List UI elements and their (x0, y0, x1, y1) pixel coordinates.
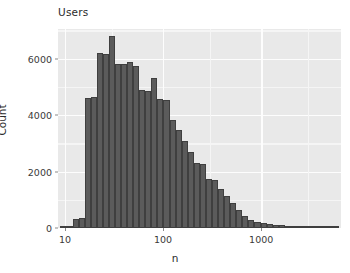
chart-figure: Users Count n 0200040006000101001000 (0, 0, 350, 273)
y-tick-mark (55, 228, 58, 229)
y-tick-mark (55, 171, 58, 172)
x-tick-mark (65, 228, 66, 231)
y-tick-label: 2000 (28, 166, 52, 177)
y-tick-label: 4000 (28, 110, 52, 121)
x-tick-label: 10 (59, 234, 71, 245)
histogram-bars (58, 29, 341, 228)
histogram-bar (333, 226, 339, 228)
x-tick-mark (261, 228, 262, 231)
y-axis-label: Count (0, 104, 8, 135)
y-tick-label: 6000 (28, 53, 52, 64)
y-axis-ticks (0, 0, 50, 273)
x-tick-mark (163, 228, 164, 231)
chart-title: Users (58, 6, 88, 18)
y-tick-label: 0 (46, 223, 52, 234)
y-tick-mark (55, 115, 58, 116)
y-tick-mark (55, 58, 58, 59)
x-axis-label: n (0, 252, 350, 264)
plot-panel (58, 29, 341, 228)
x-tick-label: 1000 (249, 234, 273, 245)
x-tick-label: 100 (154, 234, 172, 245)
